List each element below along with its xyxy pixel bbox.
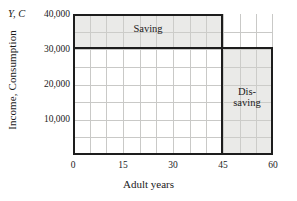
- y-axis-line: [73, 14, 75, 155]
- region-label-dissaving-line1: Dis-: [221, 86, 273, 97]
- x-axis-line: [73, 153, 273, 155]
- y-tick-label-20000: 20,000: [22, 79, 70, 89]
- y-axis-title: Income, Consumption: [6, 30, 18, 130]
- y-tick-label-10000: 10,000: [22, 114, 70, 124]
- y-tick-label-40000: 40,000: [22, 9, 70, 19]
- x-tick-label-15: 15: [118, 160, 128, 170]
- region-label-dissaving-line2: saving: [221, 97, 273, 108]
- x-tick-label-45: 45: [218, 160, 228, 170]
- x-tick-label-60: 60: [268, 160, 278, 170]
- x-axis-title: Adult years: [0, 178, 297, 190]
- chart-figure: Y, C Income, Consumption 40,000 30,000 2…: [0, 0, 297, 201]
- plot-area: Saving Dis- saving: [73, 14, 273, 155]
- region-label-dissaving: Dis- saving: [221, 86, 273, 109]
- x-tick-label-0: 0: [71, 160, 76, 170]
- x-axis-tick-labels: 0 15 30 45 60: [0, 160, 297, 174]
- x-tick-label-30: 30: [168, 160, 178, 170]
- region-label-saving: Saving: [73, 23, 223, 34]
- y-axis-title-block: Income, Consumption: [2, 10, 22, 150]
- y-tick-label-30000: 30,000: [22, 44, 70, 54]
